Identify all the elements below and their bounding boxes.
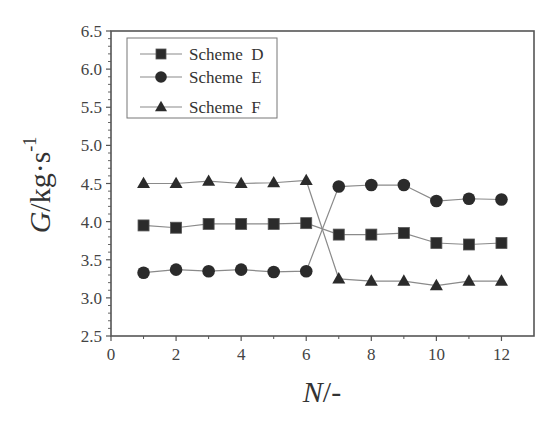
data-point [463, 192, 476, 205]
data-point [235, 263, 248, 276]
x-tick-label: 2 [172, 345, 181, 364]
data-point [332, 180, 345, 193]
data-point [137, 177, 150, 188]
legend-label: Scheme E [189, 68, 262, 87]
data-point [397, 274, 410, 285]
data-point [300, 265, 313, 278]
y-tick-label: 3.0 [81, 289, 102, 308]
data-point [268, 218, 279, 229]
data-series [137, 174, 508, 291]
legend-label: Scheme F [189, 98, 261, 117]
legend-label: Scheme D [189, 45, 264, 64]
y-tick-label: 4.5 [81, 175, 102, 194]
data-point [365, 274, 378, 285]
x-axis: 024681012 [107, 336, 510, 364]
data-point [300, 174, 313, 185]
data-point [366, 229, 377, 240]
data-point [430, 195, 443, 208]
data-point [495, 193, 508, 206]
y-axis-title: G/kg·s-1 [20, 137, 56, 234]
data-point [267, 266, 280, 279]
y-tick-label: 2.5 [81, 327, 102, 346]
circle-marker-icon [155, 71, 167, 83]
data-point [235, 177, 248, 188]
x-axis-title: N/- [302, 375, 341, 408]
x-tick-label: 12 [493, 345, 510, 364]
y-tick-label: 5.5 [81, 98, 102, 117]
data-point [236, 218, 247, 229]
data-point [170, 177, 183, 188]
y-tick-label: 6.5 [81, 22, 102, 41]
x-tick-label: 4 [237, 345, 246, 364]
data-point [138, 220, 149, 231]
data-point [301, 218, 312, 229]
y-tick-label: 6.0 [81, 60, 102, 79]
data-point [463, 239, 474, 250]
data-point [202, 265, 215, 278]
line-chart: 024681012 2.53.03.54.04.55.05.56.06.5 Sc… [0, 0, 559, 423]
data-point [333, 229, 344, 240]
data-point [365, 179, 378, 192]
data-point [203, 218, 214, 229]
y-axis: 2.53.03.54.04.55.05.56.06.5 [81, 22, 111, 346]
series-scheme-d [138, 218, 507, 250]
y-tick-label: 5.0 [81, 136, 102, 155]
data-point [495, 274, 508, 285]
y-tick-label: 4.0 [81, 213, 102, 232]
x-tick-label: 10 [428, 345, 445, 364]
data-point [398, 228, 409, 239]
x-tick-label: 6 [302, 345, 311, 364]
legend: Scheme DScheme EScheme F [127, 38, 277, 118]
x-tick-label: 0 [107, 345, 116, 364]
data-point [431, 237, 442, 248]
data-point [267, 176, 280, 187]
data-point [170, 263, 183, 276]
square-marker-icon [156, 49, 166, 59]
y-tick-label: 3.5 [81, 251, 102, 270]
series-scheme-f [137, 174, 508, 291]
data-point [171, 222, 182, 233]
data-point [398, 179, 411, 192]
data-point [202, 174, 215, 185]
x-tick-label: 8 [367, 345, 376, 364]
data-point [462, 274, 475, 285]
data-point [496, 237, 507, 248]
data-point [332, 272, 345, 283]
data-point [137, 266, 150, 279]
